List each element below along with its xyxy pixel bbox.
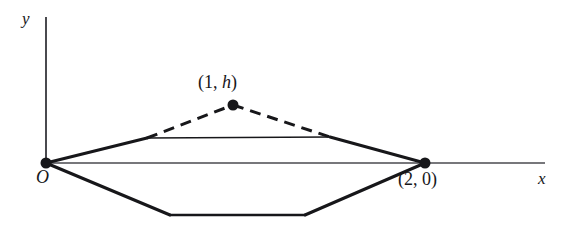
lower-left-edge [46,163,170,215]
right-intercept-label: (2, 0) [398,170,437,188]
figure-container: y x O (1, h) (2, 0) [0,0,566,230]
dashed-right-leg [233,105,330,137]
apex-point-label: (1, h) [198,73,237,91]
upper-left-edge [46,138,147,163]
x-axis-label: x [538,170,546,187]
apex-point-marker [228,100,239,111]
right-intercept-point-marker [420,158,431,169]
dashed-left-leg [147,105,233,138]
y-axis-label: y [22,10,30,27]
origin-label: O [36,168,49,186]
diagram-canvas [0,0,566,230]
upper-top-edge [147,137,330,138]
upper-right-edge [330,137,425,163]
